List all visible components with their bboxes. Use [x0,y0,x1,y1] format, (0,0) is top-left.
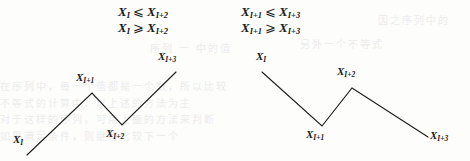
vertex-label-subscript: I+2 [113,132,124,141]
vertex-label-left-valley: XI+2 [106,128,124,142]
vertex-label-subscript: I [263,55,266,64]
vertex-label-subscript: I+3 [437,134,448,143]
vertex-label-right-peak: XI+2 [337,66,355,80]
vertex-label-right-start: XI [256,51,266,65]
vertex-label-subscript: I [20,138,23,147]
zigzag-diagrams [0,0,470,161]
vertex-label-left-end: XI+3 [158,51,176,65]
scanned-page: 因之序列中的序列 一 中的值另外一个不等式在序列中，每一个值都是一个数，所以比较… [0,0,470,161]
vertex-label-left-peak: XI+1 [76,72,94,86]
zigzag-polyline-right [262,72,428,137]
vertex-label-subscript: I+3 [165,55,176,64]
vertex-label-right-valley: XI+1 [306,129,324,143]
vertex-label-subscript: I+1 [313,133,324,142]
vertex-label-right-end: XI+3 [430,130,448,144]
vertex-label-left-start: XI [13,134,23,148]
zigzag-polyline-left [27,72,176,155]
vertex-label-subscript: I+2 [344,70,355,79]
vertex-label-subscript: I+1 [83,76,94,85]
